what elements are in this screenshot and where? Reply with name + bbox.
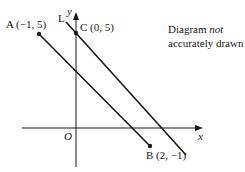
- point-a-label: A (−1, 5): [6, 18, 46, 31]
- coordinate-diagram: A (−1, 5) C (0, 5) B (2, −1) L y x O Dia…: [0, 0, 245, 172]
- segment-ab: [39, 34, 150, 146]
- disclaimer-line1-emph: not: [209, 23, 224, 35]
- y-axis-arrow-icon: [73, 12, 79, 20]
- point-c-label: C (0, 5): [80, 21, 114, 34]
- x-axis: [22, 125, 203, 131]
- point-b-label: B (2, −1): [146, 149, 186, 162]
- disclaimer-note: Diagram not accurately drawn: [168, 23, 244, 49]
- disclaimer-line1-prefix: Diagram: [168, 23, 209, 35]
- line-l-label: L: [58, 12, 65, 24]
- y-axis-label: y: [66, 5, 72, 17]
- disclaimer-line2: accurately drawn: [168, 37, 244, 49]
- point-a: [37, 32, 41, 36]
- origin-label: O: [64, 130, 72, 142]
- point-b: [148, 144, 152, 148]
- point-c: [74, 31, 78, 35]
- x-axis-label: x: [197, 130, 203, 142]
